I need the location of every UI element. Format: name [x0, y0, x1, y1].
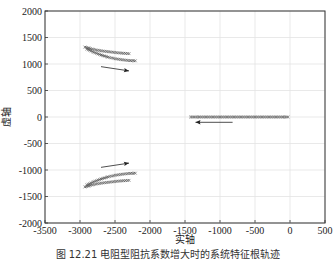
y-tick-label: -2000 — [19, 218, 42, 229]
figure-caption: 图 12.21 电阻型阻抗系数增大时的系统特征根轨迹 — [0, 246, 336, 261]
x-tick-label: 0 — [288, 225, 293, 236]
x-tick-label: -2500 — [103, 225, 126, 236]
y-tick-label: 1000 — [22, 59, 42, 70]
y-tick-label: 0 — [37, 112, 42, 123]
x-tick-label: -1000 — [208, 225, 231, 236]
y-tick-label: 2000 — [22, 6, 42, 17]
x-tick-label: -3000 — [68, 225, 91, 236]
x-tick-label: 500 — [318, 225, 333, 236]
x-tick-label: -2000 — [138, 225, 161, 236]
y-tick-label: 1500 — [22, 32, 42, 43]
y-axis-label: 虚轴 — [0, 107, 12, 127]
y-tick-label: -1000 — [19, 165, 42, 176]
y-tick-label: 500 — [27, 85, 42, 96]
y-tick-label: -500 — [24, 138, 42, 149]
y-tick-label: -1500 — [19, 191, 42, 202]
x-axis-label: 实轴 — [175, 233, 195, 245]
root-locus-chart: -3500-3000-2500-2000-1500-1000-5000500 -… — [0, 0, 336, 246]
x-tick-label: -500 — [246, 225, 264, 236]
y-tick-labels: -2000-1500-1000-5000500100015002000 — [19, 6, 42, 229]
